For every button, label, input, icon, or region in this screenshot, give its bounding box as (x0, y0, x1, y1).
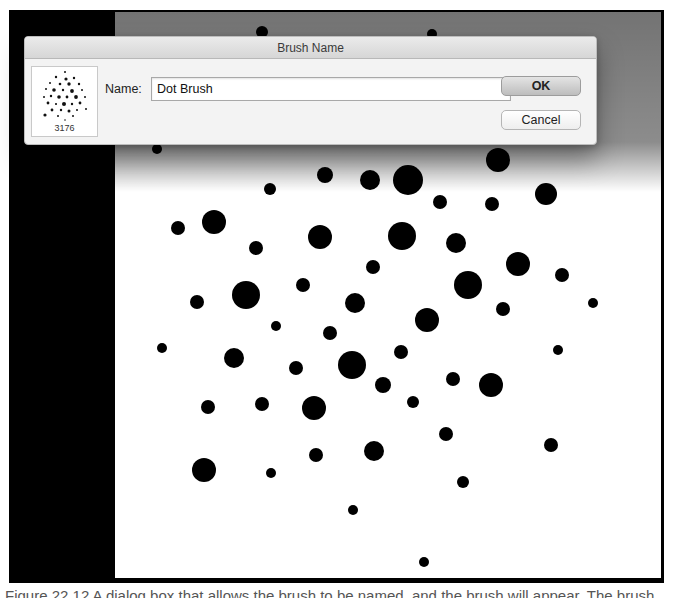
brush-dot (271, 321, 281, 331)
brush-dot (348, 505, 358, 515)
brush-dot (249, 241, 263, 255)
brush-dot (393, 165, 423, 195)
brush-dot (323, 326, 337, 340)
brush-dot (553, 345, 563, 355)
brush-dot (190, 295, 204, 309)
brush-dot (375, 377, 391, 393)
brush-dot (345, 293, 365, 313)
brush-dot (485, 197, 499, 211)
brush-dot (446, 372, 460, 386)
figure-caption: Figure 22.12 A dialog box that allows th… (5, 586, 678, 598)
brush-dot (454, 271, 482, 299)
brush-dot (289, 361, 303, 375)
brush-dot (338, 351, 366, 379)
brush-dot (407, 396, 419, 408)
brush-dot (232, 281, 260, 309)
brush-dot (152, 144, 162, 154)
brush-dot (360, 170, 380, 190)
brush-dot (588, 298, 598, 308)
brush-dot (192, 458, 216, 482)
brush-dot (302, 396, 326, 420)
brush-thumbnail: 3176 (31, 66, 98, 137)
brush-dot (439, 427, 453, 441)
brush-dot (394, 345, 408, 359)
brush-dot (224, 348, 244, 368)
name-label: Name: (105, 82, 142, 96)
brush-dot (255, 397, 269, 411)
cancel-button[interactable]: Cancel (501, 110, 581, 130)
brush-name-input[interactable] (151, 77, 511, 101)
brush-dot (535, 183, 557, 205)
brush-dot (496, 302, 510, 316)
brush-dot (296, 278, 310, 292)
ok-button[interactable]: OK (501, 76, 581, 96)
brush-dot (486, 148, 510, 172)
brush-dot (264, 183, 276, 195)
brush-dot (555, 268, 569, 282)
brush-dot (446, 233, 466, 253)
brush-size-label: 3176 (32, 123, 97, 133)
brush-dot (419, 557, 429, 567)
brush-dot (308, 225, 332, 249)
brush-dot (457, 476, 469, 488)
brush-dot (202, 210, 226, 234)
brush-dot (171, 221, 185, 235)
brush-dot (201, 400, 215, 414)
brush-dot (309, 448, 323, 462)
brush-dot (415, 308, 439, 332)
brush-name-dialog: Brush Name 3176 Name: OK Cancel (24, 36, 597, 145)
dot-brush-preview-icon (36, 69, 94, 121)
brush-dot (433, 195, 447, 209)
brush-dot (364, 441, 384, 461)
brush-dot (506, 252, 530, 276)
brush-dot (366, 260, 380, 274)
brush-dot (157, 343, 167, 353)
brush-dot (317, 167, 333, 183)
brush-dot (544, 438, 558, 452)
dialog-title: Brush Name (25, 37, 596, 59)
brush-dot (388, 222, 416, 250)
brush-dot (479, 373, 503, 397)
brush-dot (266, 468, 276, 478)
